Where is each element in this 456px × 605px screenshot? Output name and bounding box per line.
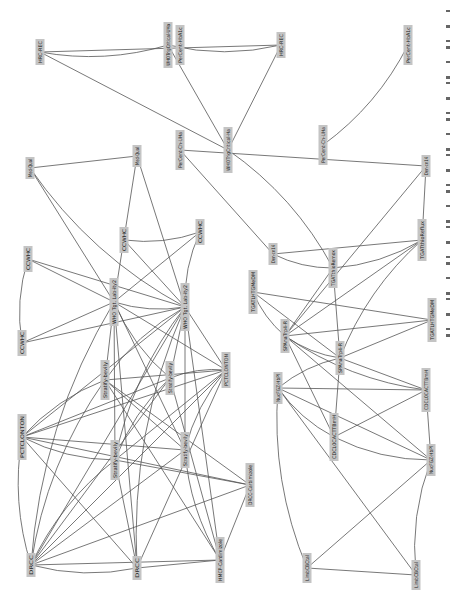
graph-edge [253, 292, 432, 320]
graph-node[interactable]: TGATthioRemox [329, 248, 338, 288]
graph-node[interactable]: Stratify-bevily [111, 440, 120, 480]
graph-edge [185, 370, 226, 450]
caption-text-fragment [446, 40, 450, 42]
graph-edge [185, 307, 220, 560]
node-label: WHOTrigCritical-UHa [165, 24, 172, 66]
graph-node[interactable]: SPAnaTrp4-R [336, 341, 345, 375]
graph-node[interactable]: Den-cn14 [422, 155, 431, 177]
caption-text-fragment [446, 220, 450, 223]
graph-edge [285, 240, 422, 336]
graph-edge [307, 568, 416, 575]
graph-edge [285, 336, 431, 460]
graph-edge [278, 388, 426, 390]
graph-edge [28, 259, 114, 302]
graph-node[interactable]: Stratify-bevily [166, 361, 175, 395]
node-label: HRC-REC [278, 34, 284, 56]
graph-node[interactable]: DRCC [27, 553, 36, 577]
node-label: SPAnaTrp4-R [337, 343, 344, 373]
node-label: WHO Tgt. Lab-ity2 [182, 285, 189, 329]
graph-edge [340, 358, 426, 390]
graph-node[interactable]: PerCent-Ch-UHa [176, 130, 185, 170]
caption-text-fragment [446, 61, 450, 63]
graph-node[interactable]: HMCP-Cardimizole [216, 537, 225, 583]
node-label: Stratify-bevily [102, 362, 109, 398]
graph-edge [115, 378, 170, 460]
caption-text-fragment [446, 112, 450, 114]
node-label: PerCent-Ch-UHa [320, 127, 326, 163]
graph-node[interactable]: DRCC [133, 556, 142, 580]
graph-node[interactable]: CDCL0CACTTBmH [330, 413, 339, 461]
caption-text-fragment [446, 154, 450, 156]
graph-node[interactable]: CCWHC [24, 246, 33, 272]
graph-node[interactable]: HRC-REC [277, 32, 286, 58]
graph-edge [114, 302, 226, 370]
graph-node[interactable]: LimbCBCtal [412, 560, 421, 590]
graph-node[interactable]: PerCent-HbA1c [404, 25, 413, 65]
graph-node[interactable]: PerCent-Ch-UHa [319, 125, 328, 165]
graph-edge [30, 168, 185, 307]
graph-node[interactable]: TGATthioReflux [418, 219, 427, 261]
graph-node[interactable]: CCWHC [196, 219, 205, 245]
graph-edge [185, 307, 226, 370]
graph-edge [31, 565, 137, 573]
graph-node[interactable]: NucFGZ-HbPl [427, 444, 436, 476]
graph-edge [323, 45, 408, 145]
node-label: PerCent-HbA1c [177, 27, 183, 63]
graph-node[interactable]: WHOTrigCritical-Ha [224, 127, 233, 173]
graph-edge [30, 156, 137, 168]
graph-node[interactable]: SPAnaTrp4-R [281, 319, 290, 353]
graph-edge [340, 320, 432, 358]
graph-node[interactable]: Stratify-bevily [101, 360, 110, 400]
node-label: TGATLHTGMeDM [429, 300, 435, 341]
graph-node[interactable]: TGATLHTGMeDM [428, 298, 437, 342]
graph-node[interactable]: Med-Qual [26, 157, 35, 179]
graph-node[interactable]: CDCL0CACTTBmH [422, 368, 431, 412]
caption-text-fragment [446, 118, 450, 121]
graph-node[interactable]: CCWHC [18, 330, 27, 356]
graph-edge [334, 390, 426, 437]
node-label: TGATthioReflux [419, 221, 425, 260]
graph-edge [168, 45, 281, 52]
graph-edge [180, 150, 426, 166]
node-label: CCWHC [25, 247, 31, 270]
graph-edge [185, 450, 220, 560]
graph-node[interactable]: WHO Tgt. Lab-ity2 [110, 278, 119, 326]
caption-text-fragment [446, 97, 450, 100]
node-label: CDCL0CACTTBmH [331, 415, 337, 459]
caption-text-fragment [446, 298, 450, 300]
graph-node[interactable]: PCTCLONTON [18, 414, 27, 460]
graph-node[interactable]: Den-cn14 [269, 243, 278, 265]
caption-text-fragment [446, 25, 450, 28]
node-label: Stratify-bevily [167, 363, 174, 393]
graph-node[interactable]: PerCent-HbA1c [176, 25, 185, 65]
graph-edge [40, 45, 168, 57]
graph-node[interactable]: WHOTrigCritical-UHa [164, 22, 173, 68]
node-label: Den-cn14 [270, 245, 276, 263]
graph-node[interactable]: PCTCLONTON [222, 352, 231, 388]
graph-node[interactable]: TGATLHTGMeDM [249, 270, 258, 314]
caption-text-fragment [446, 241, 450, 244]
graph-node[interactable]: LimbCBCtal [303, 553, 312, 583]
caption-text-fragment [446, 184, 450, 186]
graph-edge [137, 370, 226, 568]
graph-edge [105, 380, 220, 560]
graph-node[interactable]: CCWHC [120, 227, 129, 253]
graph-node[interactable]: Med-Qual [133, 145, 142, 167]
node-label: WHOTrigCritical-Ha [225, 129, 232, 171]
graph-edge [307, 460, 431, 568]
graph-edge [228, 45, 281, 150]
graph-node[interactable]: HRC-REC [36, 39, 45, 65]
graph-node[interactable]: Stratify-bevily [181, 432, 190, 468]
node-label: PCTCLONTON [19, 416, 25, 458]
graph-edge [137, 156, 185, 307]
graph-node[interactable]: WHO Tgt. Lab-ity2 [181, 283, 190, 331]
graph-edge [22, 307, 185, 343]
node-label: SPAnaTrp4-R [282, 321, 289, 351]
graph-node[interactable]: DRCC-Carbimizole [246, 463, 255, 507]
graph-node[interactable]: NucFGZ-HbPl [274, 372, 283, 404]
graph-edge [285, 268, 333, 336]
caption-text-fragment [446, 133, 450, 135]
node-label: NucFGZ-HbPl [275, 374, 281, 402]
graph-edge [285, 336, 340, 358]
graph-edge [31, 370, 226, 565]
